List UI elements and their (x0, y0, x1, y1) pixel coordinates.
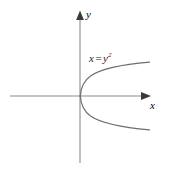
coordinate-plot (0, 0, 170, 173)
parabola-upper-branch (80, 62, 149, 96)
parabola-lower-branch (80, 96, 149, 130)
equation-exponent: 2 (108, 51, 112, 59)
equation-operator: = (95, 52, 101, 64)
equation-lhs: x (89, 52, 94, 64)
parabola-figure: y x x=y2 (0, 0, 170, 173)
x-axis-label: x (150, 100, 155, 111)
y-axis-arrow-icon (76, 11, 84, 21)
curve-equation-label: x=y2 (89, 52, 112, 64)
y-axis-label: y (86, 9, 91, 20)
